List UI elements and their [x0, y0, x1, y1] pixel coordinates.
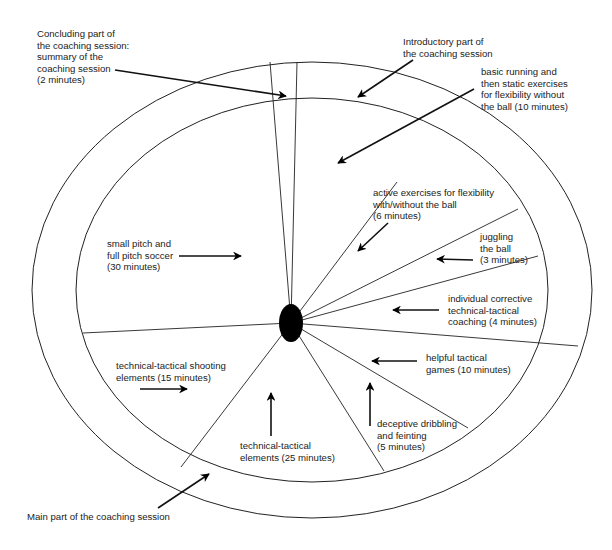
label-tech-tactical: technical-tactical elements (25 minutes) — [240, 440, 335, 463]
label-introductory: Introductory part of the coaching sessio… — [403, 36, 493, 59]
label-concluding: Concluding part of the coaching session:… — [37, 28, 129, 86]
label-individual-coaching: individual corrective technical-tactical… — [448, 293, 537, 328]
arrow-introductory — [358, 60, 413, 97]
inner-ring — [76, 98, 548, 482]
label-active-exercises: active exercises for flexibility with/wi… — [373, 187, 494, 222]
arrow-basic-running — [338, 89, 474, 163]
divider-concluding-left — [270, 62, 291, 323]
arrow-concluding — [115, 70, 286, 96]
label-tactical-games: helpful tactical games (10 minutes) — [426, 352, 511, 375]
arrow-main — [158, 474, 209, 508]
label-basic-running: basic running and then static exercises … — [481, 66, 568, 112]
label-soccer: small pitch and full pitch soccer (30 mi… — [107, 238, 173, 273]
divider-soccer — [83, 323, 291, 333]
label-juggling: juggling the ball (3 minutes) — [480, 231, 528, 266]
label-dribbling: deceptive dribbling and feinting (5 minu… — [377, 418, 457, 453]
divider-tactical-games — [291, 323, 468, 428]
label-shooting: technical-tactical shooting elements (15… — [116, 360, 226, 383]
arrow-juggling — [437, 259, 473, 260]
divider-concluding-right — [291, 62, 297, 323]
label-main: Main part of the coaching session — [27, 511, 170, 523]
center-hub — [279, 304, 303, 342]
